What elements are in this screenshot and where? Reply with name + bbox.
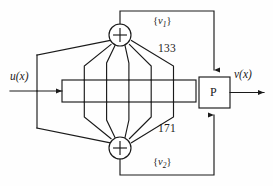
codeword-v1-label: {v1} xyxy=(153,16,172,29)
codeword-v2-label: {v2} xyxy=(153,157,172,170)
generator-polynomial-bottom-label: 171 xyxy=(158,123,176,135)
generator-polynomial-top-label: 133 xyxy=(158,43,176,55)
puncture-block-label: P xyxy=(210,86,217,98)
diagram-vector-layer xyxy=(0,0,273,186)
codeword-v1-close-brace: } xyxy=(166,15,171,26)
top-tap-lines xyxy=(37,41,174,81)
output-label: v(x) xyxy=(234,69,252,81)
encoder-diagram-canvas: u(x) v(x) P 133 171 {v1} {v2} xyxy=(0,0,273,186)
modulo-2-adder-bottom xyxy=(109,137,131,159)
modulo-2-adder-top xyxy=(109,24,131,46)
bottom-tap-lines xyxy=(37,102,174,143)
codeword-v2-close-brace: } xyxy=(166,156,171,167)
shift-register-cell-dividers xyxy=(84,80,173,102)
input-label: u(x) xyxy=(10,71,29,83)
